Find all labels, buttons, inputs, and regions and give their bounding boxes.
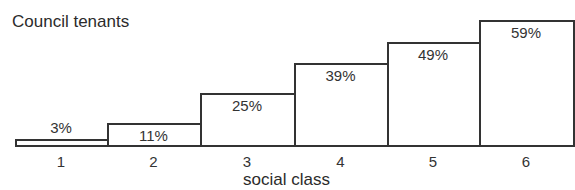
x-tick-label: 1 [46,153,76,170]
x-tick-label: 4 [326,153,356,170]
value-label: 59% [479,24,573,41]
value-label: 11% [107,127,200,144]
value-label: 49% [387,46,479,63]
bar-class-1 [15,139,109,147]
x-tick-label: 6 [511,153,541,170]
value-label: 3% [15,119,107,136]
x-tick-label: 2 [139,153,169,170]
value-label: 39% [294,67,387,84]
x-tick-label: 3 [232,153,262,170]
x-axis-label: social class [0,170,573,190]
x-tick-label: 5 [418,153,448,170]
value-label: 25% [200,97,294,114]
